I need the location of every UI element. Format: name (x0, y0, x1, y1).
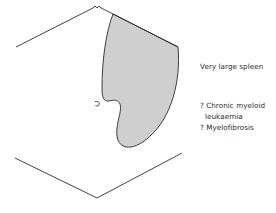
spleen-shape (102, 14, 179, 147)
diagram-title: Very large spleen (200, 63, 263, 70)
differential-item-myelofibrosis: ? Myelofibrosis (200, 124, 254, 131)
umbilicus-icon (96, 101, 100, 106)
differential-item-cml: ? Chronic myeloid (200, 102, 265, 109)
differential-item-cml-continuation: leukaemia (205, 113, 243, 120)
pelvic-outline-line (15, 153, 182, 198)
